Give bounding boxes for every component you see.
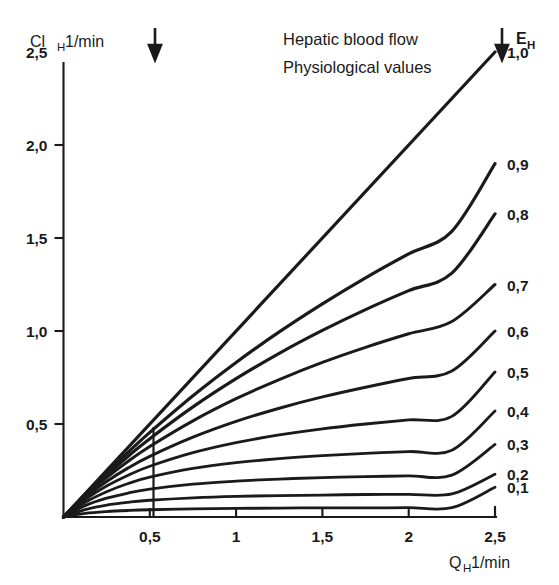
hepatic-blood-flow-figure: Hepatic blood flow Physiological values … bbox=[0, 0, 559, 585]
curve-eh-0-6 bbox=[64, 331, 496, 517]
y-tick-label: 0,5 bbox=[26, 416, 48, 433]
curve-eh-0-8 bbox=[64, 214, 496, 517]
curve-group bbox=[64, 52, 496, 517]
curve-label-eh-0-7: 0,7 bbox=[507, 277, 529, 294]
curve-eh-0-9 bbox=[64, 164, 496, 517]
x-axis-ticks: 0,511,522,5 bbox=[139, 508, 506, 545]
y-axis-title-unit: 1/min bbox=[65, 33, 104, 50]
curve-label-eh-0-5: 0,5 bbox=[507, 364, 529, 381]
curve-label-group: 1,00,90,80,70,60,50,40,30,20,1 bbox=[507, 44, 529, 496]
chart-title-line-1: Hepatic blood flow bbox=[283, 30, 418, 48]
x-axis-title-main: Q bbox=[449, 554, 461, 571]
chart-title-line-2: Physiological values bbox=[283, 58, 432, 76]
x-tick-label: 1,5 bbox=[312, 528, 334, 545]
x-axis-title: Q H 1/min bbox=[449, 554, 510, 574]
y-tick-label: 2,0 bbox=[26, 137, 48, 154]
curve-label-eh-0-9: 0,9 bbox=[507, 156, 529, 173]
curve-label-eh-0-8: 0,8 bbox=[507, 206, 529, 223]
arrow-physiological-low bbox=[149, 28, 161, 60]
x-tick-label: 1 bbox=[232, 528, 241, 545]
chart-canvas: Hepatic blood flow Physiological values … bbox=[0, 0, 559, 585]
curve-label-eh-1-0: 1,0 bbox=[507, 44, 529, 61]
x-tick-label: 0,5 bbox=[139, 528, 161, 545]
x-tick-label: 2 bbox=[404, 528, 413, 545]
y-tick-label: 1,0 bbox=[26, 323, 48, 340]
curve-label-eh-0-3: 0,3 bbox=[507, 436, 529, 453]
curve-label-eh-0-1: 0,1 bbox=[507, 479, 529, 496]
arrow-left-head bbox=[149, 45, 161, 60]
chart-title-block: Hepatic blood flow Physiological values bbox=[283, 30, 432, 76]
curve-label-eh-0-6: 0,6 bbox=[507, 323, 529, 340]
x-axis-title-unit: 1/min bbox=[471, 554, 510, 571]
curve-label-eh-0-4: 0,4 bbox=[507, 403, 529, 420]
y-axis-ticks: 0,51,01,52,02,5 bbox=[26, 44, 64, 433]
x-tick-label: 2,5 bbox=[484, 528, 506, 545]
y-tick-label: 2,5 bbox=[26, 44, 48, 61]
y-tick-label: 1,5 bbox=[26, 230, 48, 247]
